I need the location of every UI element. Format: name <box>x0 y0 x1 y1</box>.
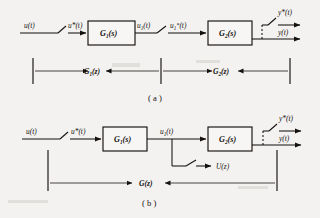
panel-a-dim-g1-label: G1(z) <box>84 67 101 77</box>
panel-a-sampler1-blade-icon <box>58 26 66 33</box>
panel-b-intermediate-label: u1(t) <box>160 127 174 137</box>
panel-b-sampler1-blade-icon <box>60 132 68 139</box>
panel-a-sampled-input-label: u*(t) <box>68 21 83 30</box>
panel-b-branch-sampler-blade-icon <box>186 160 196 166</box>
panel-a-output-sampler-blade-icon <box>268 18 276 25</box>
panel-b-branch-output-label: U(z) <box>216 162 230 171</box>
panel-b-caption: ( b ) <box>142 198 156 208</box>
panel-b: u(t) u*(t) G1(s) u1(t) U(z) <box>22 114 301 208</box>
panel-b-input-label: u(t) <box>26 127 37 136</box>
panel-b-sampled-input-label: u*(t) <box>71 127 86 136</box>
panel-a-sampled-output-label: y*(t) <box>277 8 292 17</box>
panel-a: u(t) u*(t) G1(s) u1(t) u1*(t) <box>20 8 300 103</box>
panel-b-output-label: y(t) <box>278 134 290 143</box>
panel-b-output-sampler-blade-icon <box>269 124 277 131</box>
panel-a-sampler2-blade-icon <box>157 26 166 33</box>
panel-a-caption: ( a ) <box>148 93 162 103</box>
panel-b-sampled-output-label: y*(t) <box>278 114 293 123</box>
panel-b-block-g2-label: G2(s) <box>219 135 236 145</box>
panel-a-block-g1-label: G1(s) <box>100 29 117 39</box>
panel-b-dim-g-label: G(z) <box>139 179 153 188</box>
panel-a-dim-g2-label: G2(z) <box>213 67 230 77</box>
block-diagram-figure: u(t) u*(t) G1(s) u1(t) u1*(t) <box>0 0 320 218</box>
panel-a-intermediate-sampled-label: u1*(t) <box>170 21 187 31</box>
panel-b-block-g1-label: G1(s) <box>114 135 131 145</box>
panel-a-input-label: u(t) <box>24 21 35 30</box>
figure-root: u(t) u*(t) G1(s) u1(t) u1*(t) <box>0 0 320 218</box>
panel-a-block-g2-label: G2(s) <box>219 29 236 39</box>
panel-a-intermediate-label: u1(t) <box>137 21 151 31</box>
panel-a-output-label: y(t) <box>277 28 289 37</box>
